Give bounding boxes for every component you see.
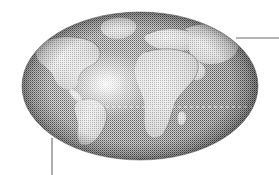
figure-root: Halftone grayscale illustration of the E… [0,0,279,175]
globe-figure-svg [0,0,279,175]
earth-globe [22,12,258,160]
globe-rim-shading [22,12,258,160]
